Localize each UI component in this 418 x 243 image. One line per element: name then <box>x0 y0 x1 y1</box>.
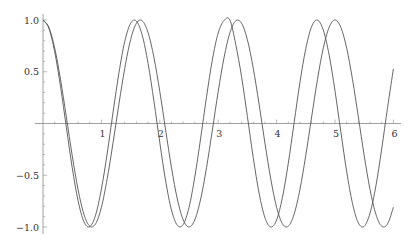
y-tick-label: 1.0 <box>24 15 39 26</box>
x-tick-label: 4 <box>275 128 281 139</box>
line-chart: 1234561.00.5−0.5−1.0 <box>0 0 418 243</box>
y-tick-label: −0.5 <box>16 170 39 181</box>
y-tick-label: 0.5 <box>24 66 39 77</box>
x-tick-label: 3 <box>216 128 222 139</box>
x-tick-label: 6 <box>391 128 397 139</box>
y-tick-label: −1.0 <box>16 222 39 233</box>
x-tick-label: 5 <box>333 128 339 139</box>
x-tick-label: 1 <box>99 128 105 139</box>
